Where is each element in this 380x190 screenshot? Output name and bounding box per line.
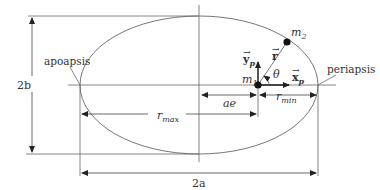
x-p-arrow-glyph: → — [292, 65, 300, 75]
periapsis-leader-line — [318, 75, 336, 85]
r-min-label: rmin — [276, 90, 297, 105]
apoapsis-leader-line — [70, 67, 80, 85]
2b-label: 2b — [17, 79, 31, 92]
y-p-arrow-glyph: → — [243, 47, 251, 57]
r-vector-arrow-glyph: → — [272, 44, 280, 54]
periapsis-label: periapsis — [327, 63, 375, 75]
orbit-diagram: 2b ae rmin rmax 2a apoapsis periapsis m1… — [0, 0, 380, 190]
mass-m2-point — [283, 38, 290, 45]
m2-label: m2 — [291, 26, 307, 41]
theta-angle-arc — [264, 76, 269, 85]
ae-label: ae — [223, 97, 237, 110]
apoapsis-label: apoapsis — [44, 55, 90, 67]
2a-label: 2a — [192, 177, 206, 190]
theta-label: θ — [273, 68, 280, 81]
m1-label: m1 — [242, 73, 258, 88]
